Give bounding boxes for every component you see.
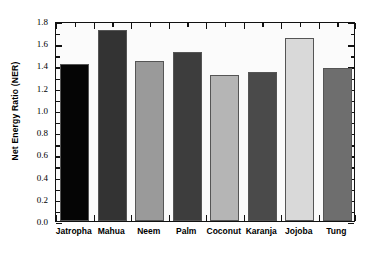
- bar-jojoba: [285, 38, 314, 221]
- y-tick-major-right: [348, 223, 354, 224]
- bar-series: [56, 23, 354, 221]
- bar-mahua: [98, 30, 127, 221]
- bar-karanja: [248, 72, 277, 221]
- x-axis-category-labels: JatrophaMahuaNeemPalmCoconutKaranjaJojob…: [55, 226, 355, 244]
- chart-figure: Net Energy Ratio (NER) 0.00.20.40.60.81.…: [0, 0, 377, 253]
- y-tick-label: 0.8: [37, 128, 48, 138]
- bar-jatropha: [60, 64, 89, 221]
- y-tick-label: 0.2: [37, 195, 48, 205]
- x-tick-label-coconut: Coconut: [207, 226, 241, 236]
- bar-palm: [173, 52, 202, 221]
- y-axis-title-text: Net Energy Ratio (NER): [10, 62, 20, 161]
- y-tick-label: 0.0: [37, 217, 48, 227]
- x-tick-major-top: [355, 23, 356, 29]
- y-tick-label: 1.2: [37, 84, 48, 94]
- y-tick-label: 1.4: [37, 61, 48, 71]
- y-tick-label: 1.0: [37, 106, 48, 116]
- y-tick-label: 1.6: [37, 39, 48, 49]
- x-tick-label-karanja: Karanja: [246, 226, 277, 236]
- x-tick-label-tung: Tung: [326, 226, 346, 236]
- bar-tung: [323, 68, 352, 221]
- x-tick-major-bottom: [355, 215, 356, 221]
- y-tick-label: 1.8: [37, 17, 48, 27]
- bar-coconut: [210, 75, 239, 221]
- y-tick-label: 0.6: [37, 150, 48, 160]
- plot-area: [55, 22, 355, 222]
- x-tick-label-palm: Palm: [176, 226, 196, 236]
- y-axis-tick-labels: 0.00.20.40.60.81.01.21.41.61.8: [22, 22, 52, 222]
- y-tick-major: [56, 223, 62, 224]
- x-tick-label-jojoba: Jojoba: [285, 226, 312, 236]
- bar-neem: [135, 61, 164, 221]
- y-axis-title: Net Energy Ratio (NER): [7, 0, 23, 222]
- y-tick-label: 0.4: [37, 173, 48, 183]
- x-tick-label-neem: Neem: [137, 226, 160, 236]
- x-tick-label-mahua: Mahua: [98, 226, 125, 236]
- x-tick-label-jatropha: Jatropha: [56, 226, 92, 236]
